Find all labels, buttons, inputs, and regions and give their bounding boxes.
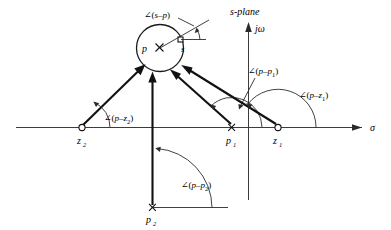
point-label-s: s xyxy=(181,44,185,54)
svg-text:∠(p–z1): ∠(p–z1) xyxy=(299,90,328,102)
angle-expr-p-z1: p–z xyxy=(309,90,323,100)
angle-suffix-p-p2: ) xyxy=(208,180,211,190)
real-axis-label: σ xyxy=(370,122,376,133)
real-axis xyxy=(16,124,362,131)
svg-text:z: z xyxy=(272,135,277,146)
angle-suffix-p-z2: ) xyxy=(130,113,133,123)
angle-prefix-p-p1: ∠( xyxy=(248,66,259,76)
svg-text:2: 2 xyxy=(153,220,157,227)
svg-text:1: 1 xyxy=(233,141,236,148)
imaginary-axis xyxy=(245,22,252,200)
angle-prefix-p-p2: ∠( xyxy=(181,180,192,190)
angle-suffix-p-p1: ) xyxy=(275,66,278,76)
angle-arc-p-z2-arrowhead xyxy=(93,101,99,107)
point-label-z1: z 1 xyxy=(272,135,282,148)
angle-expr-p-p1: p–p xyxy=(258,66,273,76)
point-marker-z2 xyxy=(79,124,85,130)
pole-zero-diagram: s-plane jω σ p s z 2 p 1 z 1 p 2 xyxy=(0,0,391,230)
angle-label-p-z1: ∠(p–z1) xyxy=(299,90,328,102)
angle-arc-p-p2 xyxy=(157,149,212,208)
svg-text:2: 2 xyxy=(83,141,87,148)
point-label-p2: p 2 xyxy=(145,214,157,227)
angle-prefix-s-p: ∠( xyxy=(144,10,155,20)
svg-text:p: p xyxy=(225,135,231,146)
svg-text:z: z xyxy=(76,135,81,146)
point-label-p1: p 1 xyxy=(225,135,236,148)
angle-label-s-p: ∠(s–p) xyxy=(144,10,170,20)
svg-text:∠(p–z2): ∠(p–z2) xyxy=(104,113,133,125)
point-marker-z1 xyxy=(275,124,281,130)
point-label-p: p xyxy=(141,43,147,54)
svg-text:∠(s–p): ∠(s–p) xyxy=(144,10,170,20)
imaginary-axis-label: jω xyxy=(253,23,265,34)
svg-text:∠(p–p1): ∠(p–p1) xyxy=(248,66,278,78)
svg-text:1: 1 xyxy=(279,141,282,148)
point-label-z2: z 2 xyxy=(76,135,87,148)
s-plane-label: s-plane xyxy=(230,6,260,17)
leader-angle-p-p1-arrowhead xyxy=(238,104,243,110)
svg-text:∠(p–p2): ∠(p–p2) xyxy=(181,180,211,192)
svg-text:p: p xyxy=(145,214,151,225)
point-marker-p xyxy=(156,44,164,52)
angle-label-p-p1: ∠(p–p1) xyxy=(248,66,278,78)
angle-label-p-p2: ∠(p–p2) xyxy=(181,180,211,192)
angle-suffix-p-z1: ) xyxy=(325,90,328,100)
angle-prefix-p-z1: ∠( xyxy=(299,90,310,100)
angle-expr-p-p2: p–p xyxy=(191,180,206,190)
angle-expr-s-p: s–p xyxy=(155,10,168,20)
leader-angle-s-p xyxy=(178,18,194,26)
angle-label-p-z2: ∠(p–z2) xyxy=(104,113,133,125)
angle-arc-p-p2-arrowhead xyxy=(155,147,161,152)
angle-prefix-p-z2: ∠( xyxy=(104,113,115,123)
angle-expr-p-z2: p–z xyxy=(114,113,128,123)
angle-suffix-s-p: ) xyxy=(167,10,170,20)
vector-p2-to-p xyxy=(148,72,156,206)
